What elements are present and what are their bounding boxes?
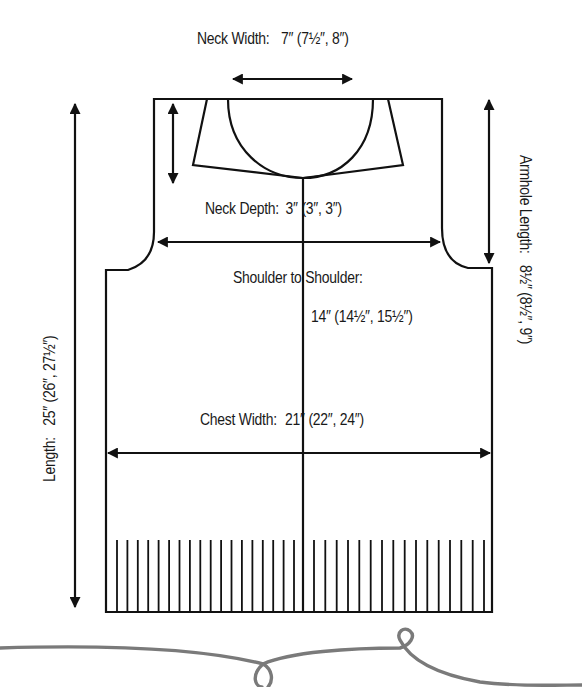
hem-ribbing (117, 540, 484, 612)
armhole-length-title: Armhole Length: (516, 155, 535, 254)
chest-width-label: Chest Width:21″ (22″, 24″) (200, 410, 364, 430)
neck-width-label: Neck Width:7″ (7½″, 8″) (197, 29, 349, 49)
vest-schematic-diagram (0, 0, 582, 687)
collar (193, 99, 403, 178)
neck-depth-title: Neck Depth: (205, 199, 279, 218)
armhole-length-value: 8½″ (8½″, 9″) (516, 265, 535, 344)
armhole-length-label: Armhole Length:8½″ (8½″, 9″) (515, 155, 535, 344)
neck-depth-label: Neck Depth:3″ (3″, 3″) (205, 199, 342, 219)
shoulder-to-shoulder-title: Shoulder to Shoulder: (233, 268, 363, 287)
yarn-flourish-decoration (0, 629, 582, 687)
neckline-curve (228, 99, 373, 178)
shoulder-to-shoulder-value: 14″ (14½″, 15½″) (311, 307, 413, 327)
collar-left-panel (193, 99, 303, 178)
vest-body-outline (106, 99, 492, 612)
length-value: 25″ (26″, 27½″) (40, 336, 59, 426)
chest-width-value: 21″ (22″, 24″) (285, 410, 364, 429)
chest-width-title: Chest Width: (200, 410, 277, 429)
neck-width-value: 7″ (7½″, 8″) (281, 29, 349, 48)
length-title: Length: (40, 437, 59, 482)
length-label: Length:25″ (26″, 27½″) (40, 336, 60, 482)
collar-right-panel (303, 99, 403, 178)
shoulder-to-shoulder-label: Shoulder to Shoulder: (233, 268, 363, 288)
neck-depth-value: 3″ (3″, 3″) (286, 199, 342, 218)
neck-width-title: Neck Width: (197, 29, 269, 48)
